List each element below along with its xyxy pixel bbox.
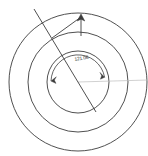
technical-drawing-svg (0, 0, 148, 156)
angle-dimension-arc (51, 55, 105, 81)
leader-line (52, 17, 81, 38)
drawing-canvas: 121.06 (0, 0, 148, 156)
horizontal-reference-line (78, 80, 148, 82)
diagonal-radius-line (34, 9, 96, 112)
angle-dimension-arc-group (51, 55, 105, 84)
arc-start-arrow-head-icon (51, 77, 56, 84)
